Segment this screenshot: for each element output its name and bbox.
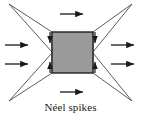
figure-canvas bbox=[0, 0, 141, 116]
spike-bottom-right bbox=[93, 53, 132, 101]
figure-caption: Néel spikes bbox=[0, 101, 141, 113]
spike-bottom-left bbox=[9, 53, 52, 101]
neel-spikes-figure: Néel spikes bbox=[0, 0, 141, 116]
central-domain bbox=[52, 32, 93, 73]
